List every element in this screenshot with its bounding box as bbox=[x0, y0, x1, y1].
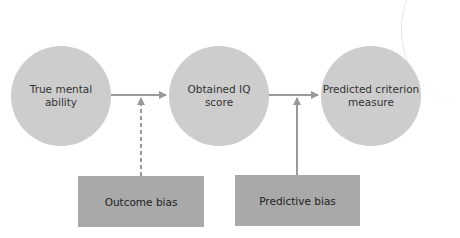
node-label: Predicted criterion bbox=[323, 83, 420, 95]
node-outcome-bias: Outcome bias bbox=[78, 176, 204, 227]
node-label: score bbox=[205, 96, 233, 108]
node-label: True mental bbox=[30, 83, 92, 95]
node-label: Outcome bias bbox=[105, 196, 178, 208]
node-obtained-iq-score: Obtained IQscore bbox=[169, 46, 269, 146]
node-true-mental-ability: True mentalability bbox=[11, 46, 111, 146]
node-label: ability bbox=[45, 96, 77, 108]
node-label: measure bbox=[348, 96, 394, 108]
node-predictive-bias: Predictive bias bbox=[235, 175, 360, 226]
node-predicted-criterion-measure: Predicted criterionmeasure bbox=[321, 46, 421, 146]
node-label: Obtained IQ bbox=[188, 83, 251, 95]
node-label: Predictive bias bbox=[259, 195, 336, 207]
